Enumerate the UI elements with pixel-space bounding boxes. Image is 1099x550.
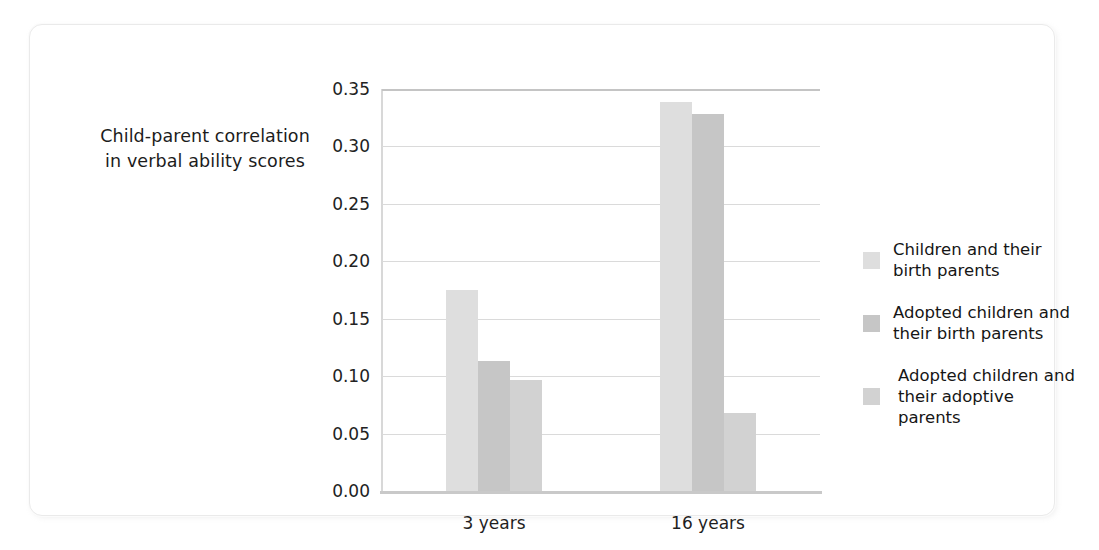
legend-label-line-2: their birth parents (893, 323, 1070, 344)
bar (692, 114, 724, 491)
legend-label-line-2: their adoptive parents (898, 386, 1078, 428)
legend-label-line-1: Children and their (893, 239, 1042, 260)
y-tick-label: 0.00 (332, 481, 370, 501)
legend-swatch-icon (863, 315, 880, 332)
chart-legend: Children and theirbirth parentsAdopted c… (863, 239, 1078, 449)
y-axis-title: Child-parent correlation in verbal abili… (85, 124, 325, 174)
bar (446, 290, 478, 491)
legend-label-line-1: Adopted children and (898, 365, 1078, 386)
legend-label: Adopted children andtheir birth parents (893, 302, 1070, 344)
y-tick-label: 0.15 (332, 309, 370, 329)
gridline (382, 261, 820, 262)
legend-label: Adopted children andtheir adoptive paren… (893, 365, 1078, 428)
y-tick-label: 0.20 (332, 251, 370, 271)
legend-swatch-icon (863, 388, 880, 405)
plot-area: 0.000.050.100.150.200.250.300.35 3 years… (382, 89, 820, 491)
bar (724, 413, 756, 491)
x-tick-label: 3 years (462, 513, 525, 533)
x-axis-line (380, 491, 822, 494)
gridline (382, 204, 820, 205)
y-tick-label: 0.35 (332, 79, 370, 99)
y-tick-label: 0.25 (332, 194, 370, 214)
x-tick-label: 16 years (671, 513, 745, 533)
y-axis-title-line-2: in verbal ability scores (85, 149, 325, 174)
bar (660, 102, 692, 491)
legend-item: Children and theirbirth parents (863, 239, 1078, 281)
legend-item: Adopted children andtheir birth parents (863, 302, 1078, 344)
y-axis-title-line-1: Child-parent correlation (85, 124, 325, 149)
y-tick-label: 0.05 (332, 424, 370, 444)
y-tick-label: 0.10 (332, 366, 370, 386)
gridline (382, 146, 820, 147)
legend-label-line-1: Adopted children and (893, 302, 1070, 323)
gridline (382, 89, 820, 91)
legend-label-line-2: birth parents (893, 260, 1042, 281)
figure-card: Child-parent correlation in verbal abili… (29, 24, 1055, 516)
y-tick-label: 0.30 (332, 136, 370, 156)
legend-item: Adopted children andtheir adoptive paren… (863, 365, 1078, 428)
legend-label: Children and theirbirth parents (893, 239, 1042, 281)
legend-swatch-icon (863, 252, 880, 269)
bar (510, 380, 542, 491)
y-axis-line (381, 89, 383, 491)
bar (478, 361, 510, 491)
